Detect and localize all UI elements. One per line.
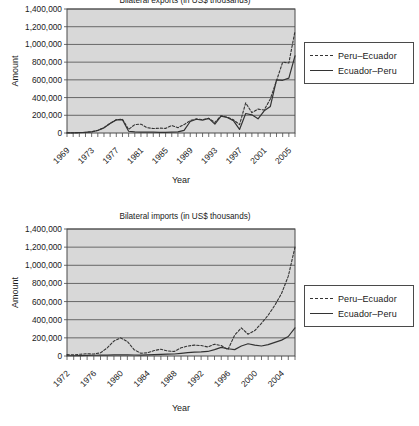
exports-chart-svg: 0200,000400,000600,000800,0001,000,0001,… xyxy=(0,0,419,200)
y-axis-title: Amount xyxy=(10,276,20,308)
x-axis-tick-labels: 197219761980198419881992199620002004 xyxy=(51,368,286,389)
y-tick-label: 200,000 xyxy=(32,333,62,343)
y-tick-label: 600,000 xyxy=(32,75,62,85)
exports-chart-title: Bilateral exports (in US$ thousands) xyxy=(60,0,310,5)
legend-entry-peru-ecuador: Peru–Ecuador xyxy=(310,291,407,306)
x-axis-title: Year xyxy=(172,175,190,185)
y-tick-label: 1,000,000 xyxy=(25,260,62,270)
legend-label-ecuador-peru: Ecuador–Peru xyxy=(338,309,397,319)
x-axis-tick-labels: 1969197319771981198519891993199720012005 xyxy=(51,145,293,166)
imports-chart-figure: Bilateral imports (in US$ thousands) 020… xyxy=(0,207,419,426)
x-tick-label: 2000 xyxy=(239,368,260,389)
x-axis-minor-ticks xyxy=(67,133,295,137)
x-tick-label: 1988 xyxy=(158,368,179,389)
imports-chart-title: Bilateral imports (in US$ thousands) xyxy=(60,212,310,221)
x-tick-label: 1981 xyxy=(125,145,146,166)
x-tick-label: 2001 xyxy=(248,145,269,166)
legend-entry-ecuador-peru: Ecuador–Peru xyxy=(310,63,407,78)
legend-solid-swatch xyxy=(310,313,333,315)
y-tick-label: 400,000 xyxy=(32,93,62,103)
y-tick-label: 200,000 xyxy=(32,110,62,120)
legend-solid-swatch xyxy=(310,70,333,72)
legend-dashed-swatch xyxy=(310,298,333,300)
legend-label-ecuador-peru: Ecuador–Peru xyxy=(338,66,397,76)
x-tick-label: 1985 xyxy=(150,145,171,166)
x-tick-label: 1977 xyxy=(100,145,121,166)
x-tick-label: 1973 xyxy=(76,145,97,166)
x-tick-label: 2005 xyxy=(273,145,294,166)
y-tick-label: 1,000,000 xyxy=(25,39,62,49)
plot-background xyxy=(67,229,295,356)
y-axis-title: Amount xyxy=(10,55,20,87)
imports-legend: Peru–Ecuador Ecuador–Peru xyxy=(304,285,414,327)
y-tick-label: 400,000 xyxy=(32,315,62,325)
y-tick-label: 800,000 xyxy=(32,278,62,288)
x-tick-label: 1989 xyxy=(174,145,195,166)
exports-legend: Peru–Ecuador Ecuador–Peru xyxy=(304,42,414,84)
x-tick-label: 1993 xyxy=(199,145,220,166)
x-tick-label: 1996 xyxy=(212,368,233,389)
x-axis-title: Year xyxy=(172,403,190,413)
y-tick-label: 1,400,000 xyxy=(25,224,62,234)
x-tick-label: 1969 xyxy=(51,145,72,166)
y-tick-label: 1,200,000 xyxy=(25,242,62,252)
x-tick-label: 1992 xyxy=(185,368,206,389)
x-tick-label: 1980 xyxy=(105,368,126,389)
y-tick-label: 600,000 xyxy=(32,297,62,307)
y-tick-label: 0 xyxy=(57,351,62,361)
legend-entry-peru-ecuador: Peru–Ecuador xyxy=(310,48,407,63)
x-tick-label: 1972 xyxy=(51,368,72,389)
y-tick-label: 800,000 xyxy=(32,57,62,67)
legend-dashed-swatch xyxy=(310,55,333,57)
x-tick-label: 1984 xyxy=(131,368,152,389)
legend-entry-ecuador-peru: Ecuador–Peru xyxy=(310,306,407,321)
y-axis-tick-labels: 0200,000400,000600,000800,0001,000,0001,… xyxy=(25,4,67,138)
legend-label-peru-ecuador: Peru–Ecuador xyxy=(338,294,397,304)
x-tick-label: 1976 xyxy=(78,368,99,389)
x-tick-label: 1997 xyxy=(224,145,245,166)
y-tick-label: 0 xyxy=(57,128,62,138)
y-tick-label: 1,400,000 xyxy=(25,4,62,14)
x-axis-minor-ticks xyxy=(67,356,295,360)
exports-chart-figure: Bilateral exports (in US$ thousands) 020… xyxy=(0,0,419,200)
y-axis-tick-labels: 0200,000400,000600,000800,0001,000,0001,… xyxy=(25,224,67,361)
x-tick-label: 2004 xyxy=(266,368,287,389)
legend-label-peru-ecuador: Peru–Ecuador xyxy=(338,51,397,61)
y-tick-label: 1,200,000 xyxy=(25,22,62,32)
